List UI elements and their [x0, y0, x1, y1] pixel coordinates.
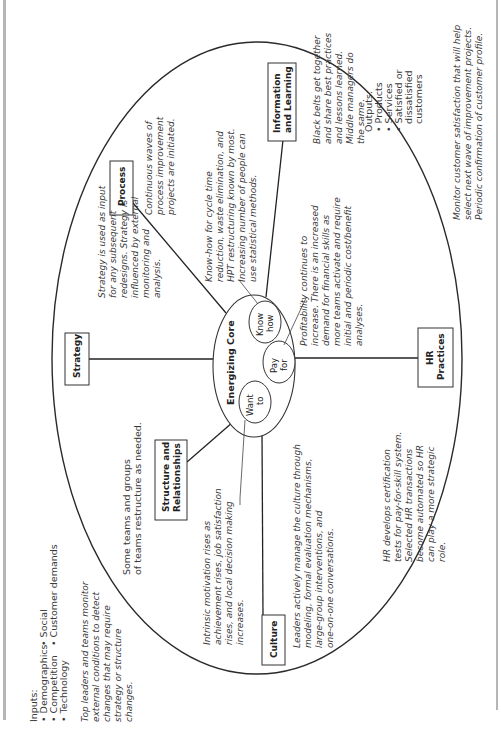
svg-text:can play a more strategic: can play a more strategic: [426, 447, 436, 562]
svg-text:Strategy is used as input: Strategy is used as input: [97, 185, 107, 298]
svg-text:and lessons learned.: and lessons learned.: [334, 51, 344, 144]
svg-text:use statistical methods.: use statistical methods.: [248, 175, 258, 282]
svg-text:tests for pay-for-skill system: tests for pay-for-skill system.: [393, 432, 403, 562]
svg-text:achievement rises, job satisfa: achievement rises, job satisfaction: [213, 488, 223, 645]
note-culture: Leaders actively manage the culture thro…: [292, 444, 335, 648]
svg-text:become automated so HR: become automated so HR: [415, 445, 425, 562]
svg-text:Relationships: Relationships: [172, 443, 182, 512]
core-title: Energizing Core: [225, 320, 236, 405]
svg-text:Structure and: Structure and: [161, 442, 171, 512]
svg-text:changes.: changes.: [124, 681, 134, 722]
svg-text:Information: Information: [272, 73, 282, 133]
note-profitability: Profitability continues to increase. The…: [299, 197, 364, 346]
svg-text:and Learning: and Learning: [283, 66, 293, 133]
spoke-culture: [262, 433, 263, 615]
svg-text:demand for financial skills as: demand for financial skills as: [321, 214, 331, 346]
svg-text:HR: HR: [425, 350, 435, 365]
core-pay-label: Pay: [269, 358, 279, 373]
svg-text:rises, and local decision maki: rises, and local decision making: [224, 501, 234, 645]
inputs-block: Inputs: • Demographics • Competition • T…: [28, 544, 69, 722]
svg-text:• Technology: • Technology: [58, 660, 69, 722]
svg-text:Middle managers do: Middle managers do: [345, 52, 355, 144]
svg-text:HR develops certification: HR develops certification: [382, 449, 392, 562]
note-intrinsic: Intrinsic motivation rises as achievemen…: [202, 488, 245, 645]
svg-text:strategy or structure: strategy or structure: [113, 628, 123, 722]
energizing-core-diagram: Energizing Core Know how Pay for Want to…: [0, 0, 501, 729]
svg-text:large-group interventions, and: large-group interventions, and: [314, 510, 324, 648]
left-page-edge: [3, 0, 6, 720]
svg-text:• Customer demands: • Customer demands: [48, 544, 59, 646]
node-hr-practices: HR Practices: [418, 328, 453, 387]
svg-text:Periodic confirmation of custo: Periodic confirmation of customer profil…: [474, 33, 484, 220]
svg-text:the same.: the same.: [356, 99, 366, 144]
svg-text:more teams activate and requir: more teams activate and require: [332, 197, 342, 346]
right-page-edge: [496, 0, 498, 710]
svg-text:Increasing number of people ca: Increasing number of people can: [237, 133, 247, 282]
svg-text:role.: role.: [437, 542, 447, 562]
svg-text:of teams restructure as needed: of teams restructure as needed.: [132, 422, 143, 575]
core-to-label: to: [255, 396, 265, 405]
svg-text:Continuous waves of: Continuous waves of: [144, 120, 154, 215]
svg-text:Strategy: Strategy: [72, 334, 82, 378]
svg-text:initial and periodic cost/bene: initial and periodic cost/benefit: [343, 206, 353, 346]
svg-text:Intrinsic motivation rises as: Intrinsic motivation rises as: [202, 520, 212, 645]
note-hr: HR develops certification tests for pay-…: [382, 432, 447, 562]
core-how-label: how: [265, 314, 275, 332]
svg-text:HPT restructuring known by mos: HPT restructuring known by most.: [226, 128, 236, 282]
svg-text:Profitability continues to: Profitability continues to: [299, 235, 309, 346]
svg-text:select next wave of improvemen: select next wave of improvement projects…: [463, 27, 473, 220]
svg-text:Leaders actively manage the cu: Leaders actively manage the culture thro…: [292, 444, 302, 648]
note-monitor: Monitor customer satisfaction that will …: [452, 24, 484, 220]
svg-text:one-on-one conversations.: one-on-one conversations.: [325, 528, 335, 648]
node-information-learning: Information and Learning: [268, 63, 296, 141]
outputs-block: Outputs: • Products • Services • Satisfi…: [363, 70, 424, 132]
svg-text:Know-how for cycle time: Know-how for cycle time: [204, 171, 214, 282]
note-structure: Some teams and groups of teams restructu…: [121, 422, 143, 575]
svg-text:and share best practices: and share best practices: [323, 32, 333, 144]
node-culture: Culture: [262, 615, 285, 665]
note-info-learning: Black belts get together and share best …: [312, 32, 366, 144]
svg-text:projects are initiated.: projects are initiated.: [166, 119, 176, 217]
svg-text:analysis.: analysis.: [152, 259, 162, 298]
node-structure-relationships: Structure and Relationships: [155, 440, 187, 520]
core-want-label: Want: [245, 394, 255, 416]
svg-text:influenced by external: influenced by external: [130, 196, 140, 298]
svg-text:modeling, formal evaluation me: modeling, formal evaluation mechanisms,: [303, 458, 313, 648]
svg-text:Top leaders and teams monitor: Top leaders and teams monitor: [80, 580, 90, 722]
svg-text:increases.: increases.: [235, 599, 245, 645]
node-strategy: Strategy: [65, 333, 89, 385]
core-know-label: Know: [255, 313, 265, 336]
svg-text:Practices: Practices: [436, 333, 446, 380]
svg-text:reduction, waste elimination,: reduction, waste elimination, and: [215, 131, 225, 282]
svg-text:changes that may require: changes that may require: [102, 605, 112, 722]
svg-text:redesigns. Strategy is: redesigns. Strategy is: [119, 200, 129, 298]
svg-text:Selected HR transactions: Selected HR transactions: [404, 448, 414, 562]
svg-text:analyses.: analyses.: [354, 304, 364, 346]
svg-text:customers: customers: [413, 74, 424, 124]
spoke-info: [266, 140, 283, 297]
note-process: Continuous waves of process improvement …: [144, 116, 176, 216]
svg-text:monitoring and: monitoring and: [141, 229, 151, 298]
svg-text:external conditions to detect: external conditions to detect: [91, 591, 101, 722]
svg-text:Some teams and groups: Some teams and groups: [121, 459, 132, 575]
svg-text:Monitor customer satisfaction: Monitor customer satisfaction that will …: [452, 24, 462, 220]
svg-text:process improvement: process improvement: [155, 116, 165, 216]
svg-text:increase. There is an increase: increase. There is an increased: [310, 205, 320, 346]
svg-text:Culture: Culture: [269, 621, 279, 658]
spoke-structure: [187, 422, 233, 462]
svg-text:for any subsequent: for any subsequent: [108, 210, 118, 298]
note-know-how: Know-how for cycle time reduction, waste…: [204, 128, 258, 282]
core-for-label: for: [279, 359, 289, 371]
svg-text:Black belts get together: Black belts get together: [312, 34, 322, 144]
